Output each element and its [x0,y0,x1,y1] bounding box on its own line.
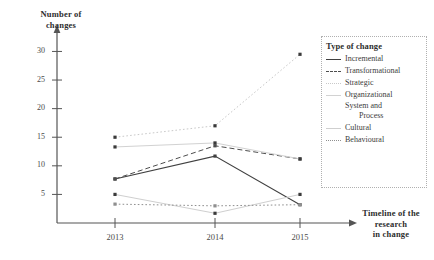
series-transformational [113,144,301,180]
series-line [115,54,300,137]
data-point [298,193,301,196]
legend-item-label: Behavioural [345,135,384,146]
tick-marks [52,51,300,228]
legend-label-line: Cultural [345,123,371,132]
legend-item-behavioural[interactable]: Behavioural [325,135,424,146]
series-incremental [113,154,301,206]
y-tick-label-15: 15 [23,132,45,141]
series-line [115,143,300,159]
series-line [115,194,300,213]
legend-item-incremental[interactable]: Incremental [325,54,424,65]
legend-line-sample [325,78,342,89]
y-axis-title-line2: changes [46,20,76,30]
legend-label-line: Organizational [345,90,392,99]
data-point [213,204,216,207]
legend-item-organizational-system-and-process[interactable]: OrganizationalSystem andProcess [325,90,424,122]
legend-label-line: Strategic [345,78,373,87]
legend-line-sample [325,135,342,146]
legend-item-label: Cultural [345,123,371,134]
y-tick-label-25: 25 [23,75,45,84]
legend-item-transformational[interactable]: Transformational [325,66,424,77]
data-point [298,53,301,56]
legend-label-line: System and [345,101,382,110]
series-behavioural [113,203,301,208]
legend-item-cultural[interactable]: Cultural [325,123,424,134]
legend-title: Type of change [326,41,424,51]
legend-item-strategic[interactable]: Strategic [325,78,424,89]
legend-line-sample [325,66,342,77]
x-axis-title-line3: in change [373,229,410,239]
data-point [213,212,216,215]
data-point [213,144,216,147]
legend-item-label: Strategic [345,78,373,89]
data-point [113,177,116,180]
x-axis-title-line1: Timeline of the [362,208,420,218]
series-line [115,156,300,205]
data-point [113,145,116,148]
axis-lines [54,25,357,226]
data-point [213,141,216,144]
x-tick-label-2015: 2015 [280,232,320,242]
y-axis-title: Number of changes [18,9,104,30]
x-tick-label-2014: 2014 [195,232,235,242]
series-cultural [113,193,301,215]
data-point [113,193,116,196]
y-tick-label-20: 20 [23,103,45,112]
legend: Type of change IncrementalTransformation… [321,36,427,188]
x-axis-title-line2: research [375,219,407,229]
y-axis-title-line1: Number of [40,9,81,19]
legend-line-sample [325,54,342,65]
line-chart: Number of changes Timeline of the resear… [0,0,434,260]
legend-label-line: Process [359,111,383,120]
legend-line-sample [325,90,342,101]
legend-item-label: Transformational [345,66,400,77]
y-tick-label-10: 10 [23,160,45,169]
legend-label-line: Incremental [345,54,383,63]
series-line [115,146,300,179]
data-point [213,124,216,127]
y-tick-label-30: 30 [23,46,45,55]
data-point [298,157,301,160]
x-tick-label-2013: 2013 [95,232,135,242]
data-point [113,136,116,139]
data-point [113,203,116,206]
y-tick-label-5: 5 [23,189,45,198]
data-point [298,203,301,206]
legend-item-label: OrganizationalSystem andProcess [345,90,392,122]
legend-line-sample [325,123,342,134]
legend-label-line: Behavioural [345,135,384,144]
x-axis-title: Timeline of the research in change [350,208,432,240]
data-point [213,154,216,157]
series-layer [113,53,301,215]
legend-items: IncrementalTransformationalStrategicOrga… [325,54,424,146]
legend-label-line: Transformational [345,66,400,75]
series-strategic [113,53,301,139]
legend-item-label: Incremental [345,54,383,65]
series-line [115,204,300,206]
